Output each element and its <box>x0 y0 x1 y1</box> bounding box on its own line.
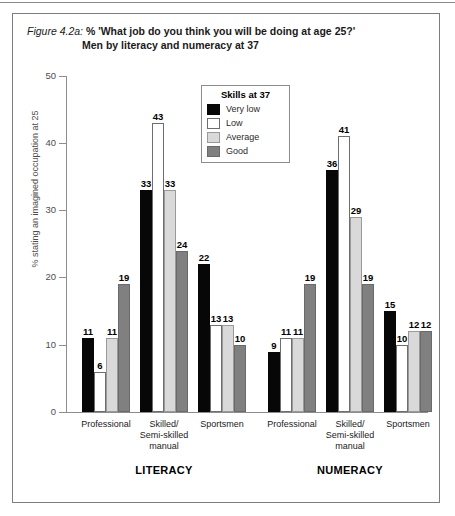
x-group-label: LITERACY <box>104 464 224 476</box>
page-top-rule <box>0 2 455 3</box>
legend-item-average[interactable]: Average <box>207 130 284 144</box>
legend-item-low[interactable]: Low <box>207 116 284 130</box>
x-category-label: Sportsmen <box>182 419 262 430</box>
x-category-label: Sportsmen <box>368 419 448 430</box>
legend-title: Skills at 37 <box>207 89 284 100</box>
legend-item-good[interactable]: Good <box>207 144 284 158</box>
chart-legend: Skills at 37 Very low Low Average Good <box>201 85 290 163</box>
x-group-label: NUMERACY <box>290 464 410 476</box>
legend-label-good: Good <box>226 146 248 156</box>
legend-swatch-icon-low <box>207 118 220 129</box>
legend-label-low: Low <box>226 118 243 128</box>
figure-frame: Figure 4.2a: % 'What job do you think yo… <box>12 13 440 503</box>
legend-item-very-low[interactable]: Very low <box>207 102 284 116</box>
legend-swatch-icon-average <box>207 132 220 143</box>
legend-swatch-icon-very-low <box>207 104 220 115</box>
legend-swatch-icon-good <box>207 146 220 157</box>
legend-label-average: Average <box>226 132 259 142</box>
legend-label-very-low: Very low <box>226 104 260 114</box>
